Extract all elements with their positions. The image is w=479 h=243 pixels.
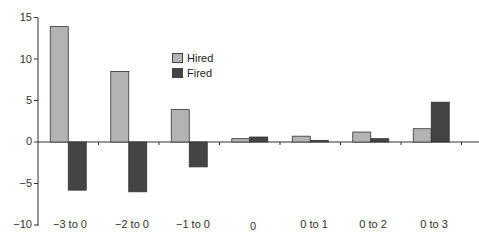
y-tick-label: −10 bbox=[2, 218, 32, 230]
y-tick-label: 10 bbox=[2, 53, 32, 65]
bars bbox=[50, 27, 449, 192]
x-tick-label: 0 to 3 bbox=[399, 218, 469, 230]
x-tick-label: −2 to 0 bbox=[97, 218, 167, 230]
bar-fired bbox=[250, 137, 268, 142]
bar-hired bbox=[50, 27, 68, 142]
legend-item-hired: Hired bbox=[172, 50, 213, 65]
legend-label: Fired bbox=[187, 67, 212, 79]
legend-label: Hired bbox=[187, 52, 213, 64]
fired-swatch-icon bbox=[172, 68, 183, 78]
y-tick-label: 5 bbox=[2, 94, 32, 106]
y-tick-label: 0 bbox=[2, 135, 32, 147]
bar-fired bbox=[189, 142, 207, 167]
bar-hired bbox=[171, 110, 189, 142]
x-tick-label: −3 to 0 bbox=[35, 218, 105, 230]
bar-fired bbox=[129, 142, 147, 192]
bar-fired bbox=[310, 140, 328, 142]
bar-hired bbox=[111, 71, 129, 142]
bar-hired bbox=[353, 132, 371, 142]
bar-fired bbox=[68, 142, 86, 190]
bar-fired bbox=[371, 139, 389, 142]
y-axis-ticks bbox=[34, 18, 38, 226]
legend: Hired Fired bbox=[172, 50, 213, 80]
hired-swatch-icon bbox=[172, 53, 183, 63]
bar-hired bbox=[232, 139, 250, 142]
legend-item-fired: Fired bbox=[172, 65, 213, 80]
x-tick-label: 0 bbox=[218, 220, 288, 232]
bar-hired bbox=[292, 136, 310, 142]
bar-fired bbox=[431, 102, 449, 142]
x-tick-label: 0 to 2 bbox=[338, 218, 408, 230]
plot-area bbox=[0, 0, 479, 243]
y-tick-label: −5 bbox=[2, 177, 32, 189]
y-tick-label: 15 bbox=[2, 11, 32, 23]
bar-hired bbox=[413, 129, 431, 142]
bar-chart: 15 10 5 0 −5 −10 −3 to 0 −2 to 0 −1 to 0… bbox=[0, 0, 479, 243]
